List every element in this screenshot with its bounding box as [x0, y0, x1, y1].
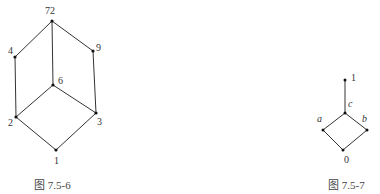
node-label-top-1: 1 — [351, 73, 356, 83]
diagram-7-5-7-edges — [323, 80, 367, 150]
node-label-2: 2 — [8, 118, 13, 128]
node-label-6: 6 — [58, 76, 63, 86]
node-label-1: 1 — [54, 156, 59, 166]
diagram-7-5-6-nodes — [13, 19, 97, 151]
node-label-bottom-0: 0 — [344, 155, 349, 165]
caption-7-5-7: 图 7.5-7 — [328, 176, 365, 192]
caption-7-5-6: 图 7.5-6 — [34, 176, 71, 192]
node-label-c: c — [348, 99, 352, 109]
node-label-3: 3 — [97, 117, 102, 127]
diagram-7-5-6-edges — [15, 21, 96, 150]
node-label-9: 9 — [96, 43, 101, 53]
node-label-a: a — [317, 114, 322, 124]
node-label-72: 72 — [45, 6, 55, 16]
node-label-b: b — [362, 114, 367, 124]
node-label-4: 4 — [8, 46, 13, 56]
